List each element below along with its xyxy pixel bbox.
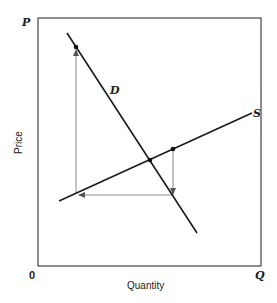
x-axis-symbol: Q bbox=[255, 269, 265, 282]
x-axis-label: Quantity bbox=[127, 280, 164, 291]
demand-point bbox=[74, 45, 79, 50]
plot-frame bbox=[38, 18, 261, 266]
supply-demand-diagram: P Q 0 Quantity Price D S bbox=[0, 0, 277, 303]
demand-label: D bbox=[109, 84, 120, 97]
origin-label: 0 bbox=[29, 269, 35, 281]
y-axis-symbol: P bbox=[21, 16, 31, 29]
supply-curve bbox=[59, 113, 252, 201]
supply-label: S bbox=[253, 107, 261, 120]
equilibrium-point bbox=[148, 158, 153, 163]
y-axis-label: Price bbox=[13, 131, 24, 154]
supply-point bbox=[171, 147, 176, 152]
demand-curve bbox=[67, 33, 197, 233]
